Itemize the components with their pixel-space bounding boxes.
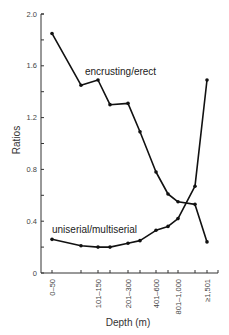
data-point	[96, 78, 100, 82]
data-point	[205, 78, 209, 82]
x-tick-label: ≥1,501	[203, 279, 212, 302]
data-point	[50, 238, 54, 242]
x-tick-label: 101–150	[94, 279, 103, 308]
data-point	[176, 217, 180, 221]
data-point	[154, 228, 158, 232]
data-point	[96, 245, 100, 249]
data-point	[79, 244, 83, 248]
x-tick-label: 401–600	[152, 279, 161, 308]
series-line-encrusting-erect	[52, 33, 207, 242]
x-axis-title: Depth (m)	[106, 317, 150, 328]
series-label-encrusting-erect: encrusting/erect	[85, 66, 156, 77]
data-point	[79, 83, 83, 87]
data-point	[126, 241, 130, 245]
y-tick-label: 1.6	[27, 61, 37, 70]
data-point	[138, 130, 142, 134]
data-point	[166, 225, 170, 229]
data-point	[50, 32, 54, 36]
data-point	[193, 184, 197, 188]
y-tick-label: 0	[33, 269, 37, 278]
x-tick-label: 201–300	[124, 279, 133, 308]
data-point	[108, 103, 112, 107]
y-axis-title: Ratios	[11, 126, 22, 154]
data-point	[205, 240, 209, 244]
series-label-uniserial-multiserial: uniserial/multiserial	[52, 224, 137, 235]
y-tick-label: 1.2	[27, 113, 37, 122]
y-tick-label: 2.0	[27, 10, 37, 19]
x-tick-label: 0–50	[48, 279, 57, 296]
data-point	[166, 192, 170, 196]
ratios-depth-chart: 00.40.81.21.62.00–50101–150201–300401–60…	[0, 0, 229, 335]
data-point	[154, 170, 158, 174]
data-point	[176, 200, 180, 204]
data-point	[193, 203, 197, 207]
y-tick-label: 0.4	[27, 217, 37, 226]
y-tick-label: 0.8	[27, 165, 37, 174]
data-point	[138, 239, 142, 243]
x-tick-label: 801–1,000	[174, 279, 183, 314]
data-point	[126, 102, 130, 106]
data-point	[108, 245, 112, 249]
